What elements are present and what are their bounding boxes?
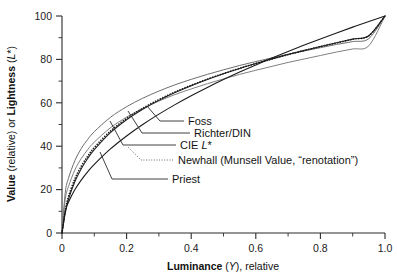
y-tick-label-40: 40	[40, 140, 52, 152]
chart-figure: 0 20 40 60 80 100 0 0.2 0.4 0.6 0.8	[0, 0, 397, 278]
legend-label-cie-prefix: CIE	[180, 139, 201, 151]
y-tick-label-60: 60	[40, 97, 52, 109]
y-axis-title-tail: *)	[5, 46, 17, 54]
legend-label-priest[interactable]: Priest	[172, 173, 200, 185]
y-tick-label-20: 20	[40, 183, 52, 195]
x-axis-title: Luminance (Y), relative	[167, 260, 279, 272]
x-axis-title-bold: Luminance	[167, 260, 223, 272]
legend-label-cie-suffix: *	[208, 139, 213, 151]
y-axis-title-bold2: Lightness	[5, 66, 17, 116]
x-tick-label-0p4: 0.4	[184, 242, 199, 254]
x-tick-label-0p6: 0.6	[248, 242, 263, 254]
y-axis-title: Value (relative) or Lightness (L*)	[5, 46, 17, 202]
y-tick-label-100: 100	[34, 10, 52, 22]
x-tick-label-0p2: 0.2	[119, 242, 134, 254]
y-tick-label-80: 80	[40, 53, 52, 65]
lightness-luminance-chart: 0 20 40 60 80 100 0 0.2 0.4 0.6 0.8	[0, 0, 397, 278]
x-tick-label-1p0: 1.0	[378, 242, 393, 254]
y-axis-title-mid1: (relative) or	[5, 116, 17, 175]
legend-label-cie[interactable]: CIE L*	[180, 139, 213, 151]
y-tick-label-0: 0	[46, 227, 52, 239]
legend-label-richter[interactable]: Richter/DIN	[194, 127, 251, 139]
legend-label-foss[interactable]: Foss	[188, 115, 212, 127]
x-tick-label-0: 0	[59, 242, 65, 254]
x-axis-title-tail: ), relative	[236, 260, 279, 272]
y-axis-title-bold1: Value	[5, 174, 17, 202]
x-tick-label-0p8: 0.8	[313, 242, 328, 254]
legend-label-newhall[interactable]: Newhall (Munsell Value, “renotation”)	[178, 154, 358, 166]
